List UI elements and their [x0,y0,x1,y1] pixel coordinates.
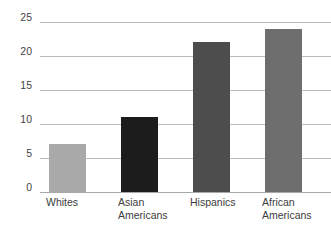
x-axis-labels: Whites Asian Americans Hispanics African… [40,196,331,233]
y-axis-tick-label-25: 25 [0,12,32,23]
bar-whites [49,144,86,192]
x-axis-label-hispanics: Hispanics [190,196,236,209]
bar-asian-americans [121,117,158,192]
plot-area [40,0,331,193]
x-axis-label-asian-americans: Asian Americans [118,196,168,221]
bar-african-americans [265,29,302,192]
y-axis-labels: 25 20 15 10 5 0 [0,0,40,193]
bar-hispanics [193,42,230,192]
y-axis-tick-label-20: 20 [0,46,32,57]
y-axis-tick-label-10: 10 [0,114,32,125]
bar-chart: 25 20 15 10 5 0 Whites Asian Americans H… [0,0,331,233]
y-axis-tick-label-5: 5 [0,148,32,159]
x-axis-label-whites: Whites [46,196,78,209]
y-axis-tick-label-15: 15 [0,80,32,91]
x-axis-baseline [40,192,331,193]
x-axis-label-african-americans: African Americans [262,196,312,221]
gridline-25 [40,22,331,23]
y-axis-tick-label-0: 0 [0,182,32,193]
